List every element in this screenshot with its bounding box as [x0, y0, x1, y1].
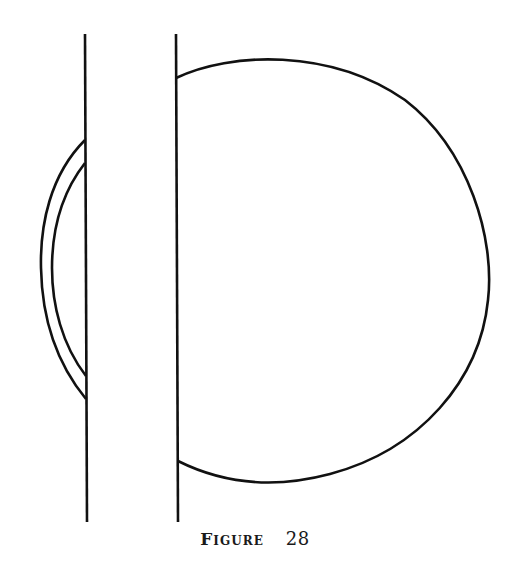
caption-label: Figure [200, 529, 264, 549]
inner-small-arc [52, 163, 86, 376]
caption-number: 28 [286, 528, 310, 549]
left-vertical-line [85, 34, 87, 522]
outer-small-arc [41, 140, 86, 399]
right-vertical-line [176, 34, 178, 522]
figure-28-diagram [0, 0, 510, 575]
large-circle-arc [176, 59, 489, 482]
figure-caption: Figure28 [0, 528, 510, 549]
